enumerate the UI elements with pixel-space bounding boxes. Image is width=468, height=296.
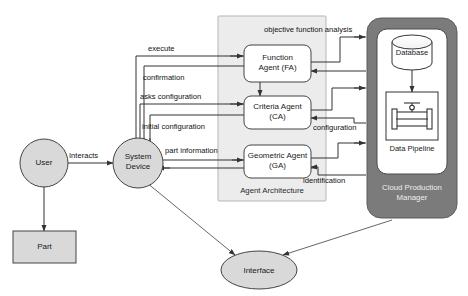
container-label-agent-architecture: Agent Architecture: [222, 186, 322, 196]
edge-cloud-interface: [283, 220, 392, 255]
node-criteria-agent[interactable]: [244, 96, 311, 129]
node-database[interactable]: [392, 35, 432, 70]
edge-label-interacts: Interacts: [69, 152, 98, 160]
node-function-agent[interactable]: [244, 45, 311, 82]
edge-label-configuration: configuration: [313, 124, 356, 132]
edge-label-initial-configuration: initial configuration: [142, 123, 205, 131]
edge-label-objective-function-analysis: objective function analysis: [264, 26, 352, 34]
node-system-device[interactable]: [113, 138, 163, 188]
edge-label-confirmation: confirmation: [143, 74, 184, 82]
node-part[interactable]: [13, 231, 76, 263]
diagram-canvas: User Part System Device Function Agent (…: [0, 0, 468, 296]
node-user[interactable]: [20, 139, 68, 187]
edge-label-identification: identification: [303, 177, 345, 185]
diagram-graphics-layer: [0, 0, 468, 296]
edge-label-execute: execute: [148, 45, 175, 53]
node-interface[interactable]: [221, 251, 297, 289]
edge-label-part-information: part information: [165, 147, 218, 155]
node-geometric-agent[interactable]: [244, 145, 311, 178]
container-label-cloud-production-manager: Cloud Production Manager: [370, 183, 454, 203]
edge-label-asks-configuration: asks configuration: [140, 93, 201, 101]
